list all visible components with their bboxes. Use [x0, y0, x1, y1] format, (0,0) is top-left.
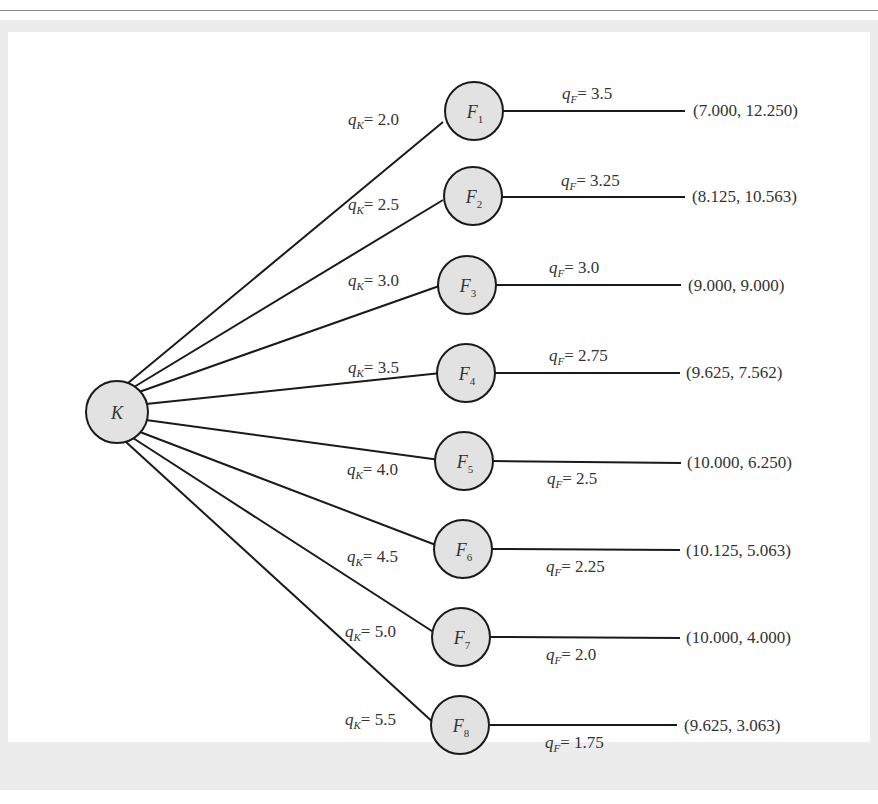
node-k-label: K — [111, 403, 123, 424]
edge-k-f1 — [128, 122, 443, 383]
f-to-payoff-edges — [490, 111, 685, 725]
node-f3-label: F3 — [460, 276, 477, 299]
qf-label-8: qF= 1.75 — [545, 733, 604, 758]
qk-label-1: qK= 2.0 — [348, 110, 399, 135]
payoff-2: (8.125, 10.563) — [692, 187, 797, 207]
edge-f6-payoff — [492, 549, 680, 550]
node-f4-label: F4 — [459, 364, 476, 387]
payoff-3: (9.000, 9.000) — [688, 276, 784, 296]
edge-f7-payoff — [490, 637, 680, 638]
payoff-7: (10.000, 4.000) — [686, 628, 791, 648]
qf-label-5: qF= 2.5 — [547, 469, 597, 494]
payoff-1: (7.000, 12.250) — [693, 101, 798, 121]
node-f7-label: F7 — [454, 628, 471, 651]
node-f1-label: F1 — [467, 102, 484, 125]
qf-label-3: qF= 3.0 — [549, 258, 599, 283]
qk-label-8: qK= 5.5 — [345, 710, 396, 735]
payoff-4: (9.625, 7.562) — [686, 363, 782, 383]
payoff-5: (10.000, 6.250) — [687, 453, 792, 473]
qf-label-1: qF= 3.5 — [562, 84, 612, 109]
node-f2-label: F2 — [466, 187, 483, 210]
qk-label-6: qK= 4.5 — [347, 547, 398, 572]
payoff-6: (10.125, 5.063) — [686, 541, 791, 561]
qk-label-3: qK= 3.0 — [348, 271, 399, 296]
qk-label-4: qK= 3.5 — [348, 358, 399, 383]
nodes — [86, 82, 503, 754]
qk-label-2: qK= 2.5 — [348, 195, 399, 220]
qf-label-2: qF= 3.25 — [561, 171, 620, 196]
qf-label-6: qF= 2.25 — [546, 557, 605, 582]
qk-label-7: qK= 5.0 — [345, 622, 396, 647]
qf-label-4: qF= 2.75 — [549, 346, 608, 371]
node-f8-label: F8 — [453, 716, 470, 739]
edge-k-f6 — [140, 432, 441, 547]
qf-label-7: qF= 2.0 — [546, 645, 596, 670]
payoff-8: (9.625, 3.063) — [684, 716, 780, 736]
edge-k-f5 — [146, 420, 440, 460]
node-f5-label: F5 — [457, 452, 474, 475]
node-f6-label: F6 — [456, 540, 473, 563]
qk-label-5: qK= 4.0 — [347, 460, 398, 485]
edge-f5-payoff — [493, 461, 681, 463]
